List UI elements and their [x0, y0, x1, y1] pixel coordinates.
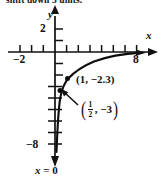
point-marker-1	[65, 76, 70, 81]
close-paren: )	[113, 101, 118, 118]
logarithmic-graph-figure: shift down 3 units.	[0, 0, 164, 180]
x-tick-label-neg2: −2	[13, 54, 25, 66]
point-label-1: (1, −2.3)	[76, 74, 114, 85]
x-axis-ticks	[20, 45, 137, 52]
point-label-half: ( 1 2 , −3 )	[80, 101, 119, 118]
fraction-numerator: 1	[88, 101, 94, 109]
y-tick-label-neg8: −8	[26, 139, 38, 151]
x-axis-label: x	[146, 30, 152, 41]
graph-canvas	[0, 0, 164, 180]
x-axis-arrowhead	[148, 48, 158, 56]
point-leader-arrow	[61, 89, 79, 106]
asymptote-value: = 0	[41, 164, 58, 176]
fraction-denominator: 2	[88, 111, 94, 119]
y-axis-label: y	[48, 9, 53, 20]
x-tick-label-8: 8	[133, 54, 139, 66]
open-paren: (	[81, 101, 86, 118]
asymptote-equation-label: x = 0	[35, 165, 58, 176]
y-tick-label-2: 2	[40, 23, 46, 35]
point-label-half-rest: , −3	[95, 104, 112, 115]
fraction-one-half: 1 2	[88, 101, 94, 118]
